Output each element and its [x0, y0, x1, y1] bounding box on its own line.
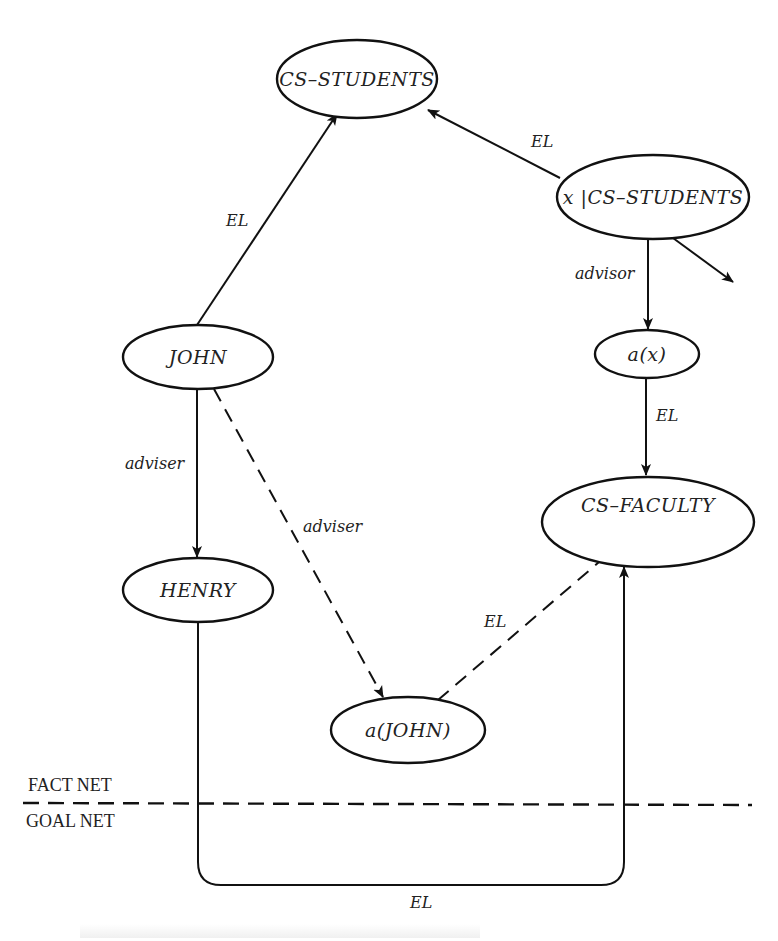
- edge-label-a-x-to-cs-faculty: EL: [655, 406, 678, 425]
- node-cs-students: CS–STUDENTS: [277, 40, 437, 118]
- node-a-x: a(x): [595, 330, 699, 378]
- edge-label-john-to-henry: adviser: [125, 454, 186, 473]
- region-label-fact-net: FACT NET: [28, 775, 112, 795]
- edge-label-henry-to-cs-faculty-goal: EL: [409, 893, 432, 912]
- edge-a-john-to-cs-faculty: [438, 551, 612, 700]
- node-label: CS–FACULTY: [581, 494, 717, 516]
- node-label: a(x): [628, 343, 667, 365]
- node-label: a(JOHN): [365, 719, 451, 741]
- cropped-caption: [80, 924, 480, 938]
- edge-label-john-to-a-john: adviser: [303, 517, 364, 536]
- node-label: x |CS–STUDENTS: [563, 186, 743, 209]
- edge-john-to-cs-students: [197, 114, 337, 325]
- node-henry: HENRY: [123, 558, 273, 622]
- edge-label-a-john-to-cs-faculty: EL: [483, 612, 506, 631]
- edge-label-x-to-a-x: advisor: [575, 264, 636, 283]
- edge-x-outgoing: [673, 238, 733, 282]
- node-john: JOHN: [123, 325, 273, 389]
- edge-label-john-to-cs-students: EL: [225, 211, 248, 230]
- edge-label-x-to-cs-students: EL: [530, 132, 553, 151]
- semantic-network-diagram: CS–STUDENTS x |CS–STUDENTS JOHN a(x) CS–…: [0, 0, 778, 941]
- node-x-cs-students: x |CS–STUDENTS: [557, 155, 749, 239]
- node-label: HENRY: [159, 579, 238, 601]
- node-label: CS–STUDENTS: [279, 68, 435, 90]
- region-label-goal-net: GOAL NET: [26, 811, 115, 831]
- fact-goal-separator: [23, 803, 752, 805]
- node-label: JOHN: [165, 346, 228, 368]
- node-cs-faculty: CS–FACULTY: [542, 477, 754, 567]
- node-a-john: a(JOHN): [331, 697, 485, 763]
- edge-john-to-a-john: [214, 389, 383, 697]
